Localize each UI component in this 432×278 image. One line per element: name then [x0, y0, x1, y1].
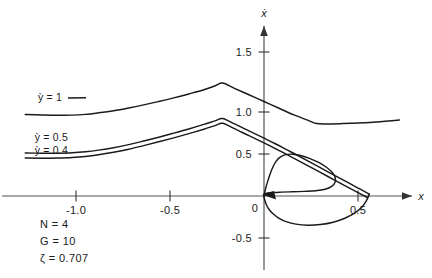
y-axis-title: ẋ: [260, 7, 267, 19]
x-tick-label--1.0: -1.0: [66, 204, 86, 216]
curve-label-ydot-05: ỳ = 0.5: [35, 131, 68, 143]
y-tick-label-1.0: 1.0: [236, 106, 252, 118]
curve-ydot-1: [25, 83, 399, 124]
curve-label-ydot-04: ỳ = 0.4: [35, 144, 68, 156]
x-axis-arrowhead: [402, 192, 412, 200]
phase-plane-plot: -1.0 -0.5 0 0.5 1.5 1.0 0.5 -0.5 x ẋ ỳ =…: [0, 0, 432, 278]
curve-ydot-0.4: [25, 123, 367, 197]
y-tick-label--0.5: -0.5: [232, 232, 252, 244]
y-tick-label-1.5: 1.5: [236, 46, 252, 58]
param-g: G = 10: [40, 235, 76, 247]
y-axis-arrowhead: [260, 26, 268, 36]
phase-plane-figure: -1.0 -0.5 0 0.5 1.5 1.0 0.5 -0.5 x ẋ ỳ =…: [0, 0, 432, 278]
x-tick-label-0: 0: [252, 202, 258, 214]
curve-ydot-0.5: [25, 118, 369, 194]
param-zeta: ζ = 0.707: [40, 252, 89, 264]
y-tick-label-0.5: 0.5: [236, 148, 252, 160]
x-axis-title: x: [417, 190, 424, 202]
curve-label-ydot-1: ỳ = 1: [38, 91, 62, 103]
x-tick-label--0.5: -0.5: [160, 204, 180, 216]
param-n: N = 4: [40, 218, 69, 230]
